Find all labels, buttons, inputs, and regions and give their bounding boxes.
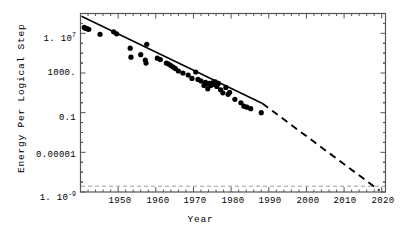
data-point <box>259 110 264 115</box>
data-point <box>227 90 232 95</box>
data-point <box>248 106 253 111</box>
x-tick-label-2000: 2000 <box>290 196 326 206</box>
data-point <box>232 97 237 102</box>
data-point <box>128 55 133 60</box>
data-point <box>223 85 228 90</box>
data-point <box>220 90 225 95</box>
y-tick-exponent: -9 <box>68 191 76 198</box>
x-tick-label-1990: 1990 <box>252 196 288 206</box>
data-point <box>114 31 119 36</box>
plot-background <box>80 13 386 192</box>
data-point <box>86 27 91 32</box>
data-point <box>144 42 149 47</box>
y-tick-label-1000: 1000. <box>26 68 76 78</box>
x-tick-label-1960: 1960 <box>140 196 176 206</box>
y-tick-mantissa: 1. 10 <box>44 34 73 44</box>
data-point <box>180 70 185 75</box>
data-point <box>189 76 194 81</box>
y-tick-label-0point1: 0.1 <box>26 113 76 123</box>
y-tick-mantissa: 0.1 <box>59 113 76 123</box>
y-tick-mantissa: 0.00001 <box>36 150 76 160</box>
x-tick-label-1950: 1950 <box>102 196 138 206</box>
y-tick-label-0point00001: 0.00001 <box>20 150 76 160</box>
x-tick-label-2010: 2010 <box>327 196 363 206</box>
data-point <box>97 32 102 37</box>
y-tick-exponent: 7 <box>72 32 76 39</box>
y-tick-mantissa: 1000. <box>47 68 76 78</box>
x-axis-title: Year <box>0 214 401 225</box>
data-point <box>198 78 203 83</box>
x-tick-label-2020: 2020 <box>365 196 401 206</box>
data-point <box>216 81 221 86</box>
data-point <box>193 69 198 74</box>
chart-figure: 1. 107 1000. 0.1 0.00001 1. 10-9 1950 19… <box>0 0 401 235</box>
data-point <box>158 57 163 62</box>
x-tick-label-1980: 1980 <box>215 196 251 206</box>
data-point <box>143 60 148 65</box>
y-tick-mantissa: 1. 10 <box>40 193 69 203</box>
data-point <box>138 52 143 57</box>
y-tick-label-1e7: 1. 107 <box>26 31 76 44</box>
y-tick-label-1e-9: 1. 10-9 <box>26 190 76 203</box>
data-point <box>176 68 181 73</box>
y-axis-title: Energy Per Logical Step <box>16 23 27 173</box>
data-point <box>128 46 133 51</box>
x-tick-label-1970: 1970 <box>177 196 213 206</box>
